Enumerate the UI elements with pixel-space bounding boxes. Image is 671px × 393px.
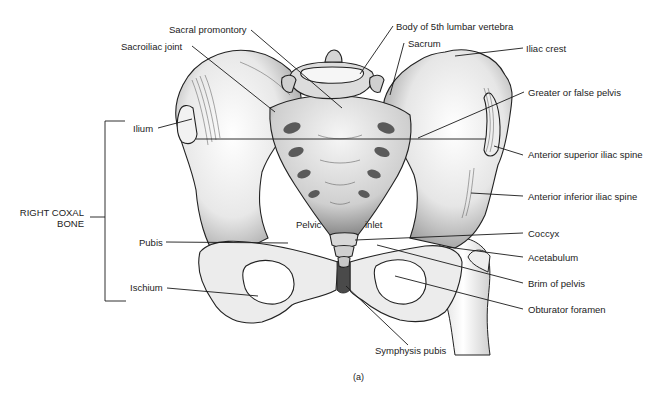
label-symphysis-pubis: Symphysis pubis [375,345,446,356]
left-pubis-ischium [350,246,462,322]
label-acetabulum: Acetabulum [528,252,578,263]
label-body-5th-lumbar-vertebra: Body of 5th lumbar vertebra [396,21,513,32]
label-ischium: Ischium [130,282,163,293]
label-ilium: Ilium [133,123,153,134]
label-pelvic: Pelvic [296,219,321,230]
label-sacral-promontory: Sacral promontory [169,24,247,35]
label-sacroiliac-joint: Sacroiliac joint [121,41,182,52]
label-inlet: inlet [365,219,382,230]
label-iliac-crest: Iliac crest [526,43,566,54]
label-coccyx: Coccyx [528,228,559,239]
group-label-line2: BONE [18,218,84,229]
label-obturator-foramen: Obturator foramen [528,304,606,315]
group-label-right-coxal-bone: RIGHT COXAL BONE [18,207,84,229]
label-anterior-superior-iliac-spine: Anterior superior iliac spine [528,149,643,160]
label-pubis: Pubis [139,237,163,248]
label-sacrum: Sacrum [408,38,441,49]
label-brim-of-pelvis: Brim of pelvis [528,278,585,289]
pelvis-diagram: Sacral promontory Sacroiliac joint Body … [0,0,671,393]
right-pubis-ischium [199,241,338,323]
label-anterior-inferior-iliac-spine: Anterior inferior iliac spine [528,191,637,202]
figure-caption: (a) [353,372,364,383]
label-greater-false-pelvis: Greater or false pelvis [528,87,621,98]
sacrum [270,95,411,267]
group-label-line1: RIGHT COXAL [18,207,84,218]
fifth-lumbar-vertebra [282,50,384,99]
